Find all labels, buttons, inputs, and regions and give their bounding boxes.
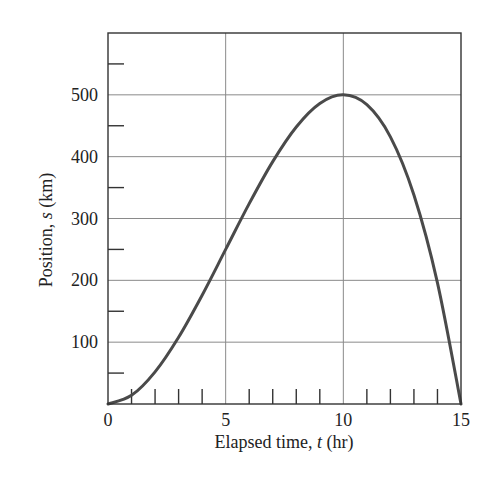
- position-curve: [108, 95, 461, 404]
- x-axis-title: Elapsed time, t (hr): [215, 432, 354, 453]
- x-tick-label: 5: [221, 410, 230, 430]
- y-tick-label: 100: [71, 332, 98, 352]
- y-tick-label: 400: [71, 147, 98, 167]
- position-time-chart: 051015 100200300400500 Elapsed time, t (…: [0, 0, 493, 478]
- y-tick-label: 300: [71, 209, 98, 229]
- gridlines: [108, 33, 461, 404]
- x-tick-labels: 051015: [104, 410, 471, 430]
- y-tick-label: 500: [71, 85, 98, 105]
- y-tick-labels: 100200300400500: [71, 85, 98, 352]
- y-axis-title: Position, s (km): [36, 173, 57, 288]
- x-tick-label: 10: [334, 410, 352, 430]
- minor-ticks: [108, 64, 437, 404]
- x-tick-label: 0: [104, 410, 113, 430]
- x-tick-label: 15: [452, 410, 470, 430]
- y-tick-label: 200: [71, 270, 98, 290]
